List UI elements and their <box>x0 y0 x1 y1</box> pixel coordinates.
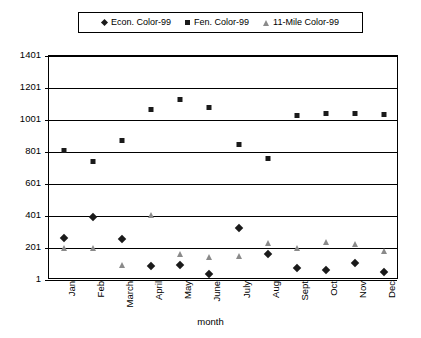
data-point <box>236 246 242 264</box>
square-marker-icon <box>236 142 241 147</box>
data-point <box>236 217 242 235</box>
diamond-marker-icon <box>293 264 301 272</box>
data-point <box>90 150 95 168</box>
square-marker-icon <box>207 105 212 110</box>
square-marker-icon <box>149 107 154 112</box>
diamond-marker-icon <box>206 270 214 278</box>
data-point <box>90 206 96 224</box>
diamond-marker-icon <box>264 250 272 258</box>
square-marker-icon <box>353 111 358 116</box>
diamond-marker-icon <box>118 234 126 242</box>
y-axis-tick <box>45 120 49 121</box>
data-point <box>353 102 358 120</box>
diamond-marker-icon <box>176 261 184 269</box>
y-axis-labels: 1201401601801100112011401 <box>0 55 44 279</box>
gridline <box>49 248 397 249</box>
data-point <box>323 258 329 276</box>
data-point <box>206 247 212 265</box>
triangle-marker-icon <box>265 240 271 246</box>
diamond-marker-icon <box>89 213 97 221</box>
data-point <box>148 255 154 273</box>
gridline <box>49 88 397 89</box>
square-marker-icon <box>61 148 66 153</box>
plot-area <box>48 55 398 279</box>
y-axis-tick-label: 801 <box>25 146 41 156</box>
triangle-marker-icon <box>236 253 242 259</box>
x-axis-tick-label: April <box>154 281 164 300</box>
square-marker-icon <box>382 112 387 117</box>
y-axis-tick-label: 401 <box>25 210 41 220</box>
data-point <box>294 104 299 122</box>
data-point <box>90 238 96 256</box>
data-point <box>178 88 183 106</box>
data-point <box>119 227 125 245</box>
chart-legend: Econ. Color-99 Fen. Color-99 11-Mile Col… <box>78 12 363 33</box>
gridline <box>49 216 397 217</box>
y-axis-tick <box>45 248 49 249</box>
legend-label-11mile: 11-Mile Color-99 <box>273 18 339 27</box>
legend-item-11mile: 11-Mile Color-99 <box>263 18 339 27</box>
y-axis-tick <box>45 216 49 217</box>
square-marker-icon <box>185 20 190 25</box>
legend-item-econ: Econ. Color-99 <box>102 18 171 27</box>
data-point <box>324 102 329 120</box>
diamond-marker-icon <box>101 19 108 26</box>
gridline <box>49 152 397 153</box>
legend-item-fen: Fen. Color-99 <box>185 18 249 27</box>
y-axis-tick-label: 601 <box>25 178 41 188</box>
diamond-marker-icon <box>147 262 155 270</box>
triangle-marker-icon <box>381 248 387 254</box>
square-marker-icon <box>178 97 183 102</box>
data-point <box>148 205 154 223</box>
data-point <box>236 133 241 151</box>
x-axis-tick-label: Oct <box>329 281 339 296</box>
data-point <box>61 238 67 256</box>
triangle-marker-icon <box>263 20 269 26</box>
data-point <box>382 261 388 279</box>
x-axis-tick-label: Dec <box>387 281 397 298</box>
triangle-marker-icon <box>323 239 329 245</box>
diamond-marker-icon <box>381 268 389 276</box>
x-axis-tick-label: Aug <box>271 281 281 298</box>
x-axis-tick-label: May <box>183 281 193 299</box>
gridline <box>49 184 397 185</box>
data-point <box>294 257 300 275</box>
x-axis-tick-label: Jan <box>67 281 77 296</box>
y-axis-tick <box>45 56 49 57</box>
x-axis-labels: JanFebMarchAprilMayJuneJulyAugSeptOctNov… <box>48 281 398 321</box>
triangle-marker-icon <box>177 251 183 257</box>
y-axis-tick-label: 201 <box>25 242 41 252</box>
data-point <box>177 244 183 262</box>
data-point <box>207 96 212 114</box>
data-point <box>323 232 329 250</box>
y-axis-tick-label: 1 <box>36 274 41 284</box>
y-axis-tick <box>45 88 49 89</box>
diamond-marker-icon <box>322 266 330 274</box>
y-axis-tick-label: 1401 <box>20 50 41 60</box>
data-point <box>61 139 66 157</box>
data-point <box>265 233 271 251</box>
data-point <box>149 98 154 116</box>
x-axis-tick-label: Feb <box>96 281 106 297</box>
y-axis-tick <box>45 152 49 153</box>
triangle-marker-icon <box>206 254 212 260</box>
data-point <box>381 241 387 259</box>
square-marker-icon <box>119 138 124 143</box>
triangle-marker-icon <box>90 245 96 251</box>
square-marker-icon <box>265 156 270 161</box>
data-point <box>265 147 270 165</box>
data-point <box>119 255 125 273</box>
gridline <box>49 120 397 121</box>
gridline <box>49 56 397 57</box>
x-axis-title: month <box>0 316 421 327</box>
square-marker-icon <box>324 111 329 116</box>
data-point <box>353 252 359 270</box>
square-marker-icon <box>294 113 299 118</box>
diamond-marker-icon <box>235 224 243 232</box>
triangle-marker-icon <box>61 245 67 251</box>
x-axis-tick-label: June <box>212 281 222 302</box>
y-axis-tick <box>45 184 49 185</box>
x-axis-tick-label: July <box>242 281 252 298</box>
x-axis-tick-label: Sept <box>300 281 310 301</box>
diamond-marker-icon <box>351 259 359 267</box>
